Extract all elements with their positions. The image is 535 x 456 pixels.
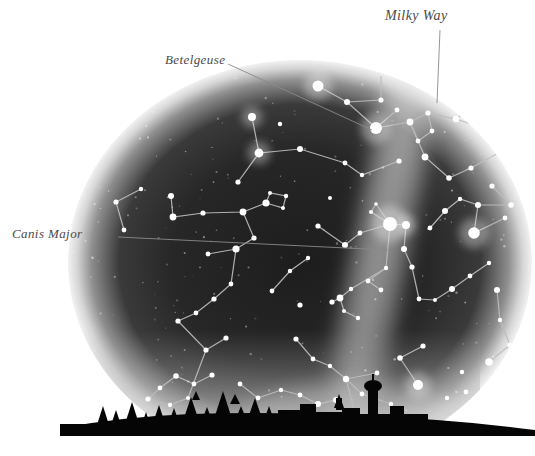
label-betelgeuse: Betelgeuse [165,52,225,68]
star [453,116,459,122]
star [293,336,298,341]
background-star [173,305,174,306]
star [383,217,397,231]
background-star [419,234,420,235]
background-star [294,114,295,115]
star [337,295,344,302]
background-star [242,213,245,216]
background-star [113,314,114,315]
background-star [174,312,175,313]
star [449,286,455,292]
star [494,287,500,293]
background-star [150,396,151,397]
star [306,256,310,260]
background-star [142,282,144,284]
background-star [127,214,129,216]
star [508,202,514,208]
background-star [183,312,184,313]
star [425,110,430,115]
background-star [466,168,468,170]
star [433,298,437,302]
background-star [171,206,173,208]
star [360,392,365,397]
background-star [165,327,166,328]
background-star [382,166,385,169]
background-star [264,97,267,100]
background-star [254,317,256,319]
star [192,382,197,387]
background-star [260,358,262,360]
background-star [268,389,270,391]
background-star [245,326,247,328]
background-star [219,77,220,78]
background-star [167,196,169,198]
background-star [282,132,283,133]
background-star [294,180,296,182]
background-star [350,351,351,352]
star [422,154,429,161]
background-star [463,343,464,344]
background-star [364,369,366,371]
background-star [492,218,494,220]
background-star [439,311,441,313]
star [374,202,378,206]
background-star [179,206,181,208]
background-star [520,233,521,234]
star [173,373,179,379]
background-star [460,241,462,243]
background-star [184,252,186,254]
background-star [447,295,449,297]
star [203,347,208,352]
star [395,108,400,113]
background-star [304,148,306,150]
star [379,288,384,293]
background-star [114,276,116,278]
background-star [336,242,338,244]
background-star [172,382,173,383]
background-star [191,174,192,175]
star [445,396,449,400]
background-star [401,298,402,299]
star [329,299,334,304]
background-star [357,234,359,236]
background-star [211,147,212,148]
background-star [306,229,308,231]
star [349,287,353,291]
star [442,208,448,214]
background-star [227,174,229,176]
star [498,318,502,322]
background-star [355,261,358,264]
background-star [250,81,251,82]
background-star [147,136,149,138]
background-star [185,151,187,153]
star [375,371,380,376]
background-star [73,251,75,253]
background-star [447,367,449,369]
background-star [369,173,372,176]
background-star [228,177,230,179]
star [298,393,303,398]
star [402,221,410,229]
background-star [100,208,101,209]
background-star [139,138,141,140]
star [343,376,349,382]
star [170,214,177,221]
star [342,242,348,248]
star [145,396,150,401]
background-star [455,391,458,394]
background-star [97,221,99,223]
background-star [377,111,379,113]
background-star [320,301,321,302]
star [503,216,508,221]
star [238,382,243,387]
background-star [195,231,197,233]
background-star [323,229,325,231]
background-star [428,310,429,311]
background-star [306,260,308,262]
background-star [372,279,374,281]
background-star [181,367,183,369]
background-star [444,131,446,133]
background-star [353,313,354,314]
star [311,357,316,362]
background-star [452,173,454,175]
